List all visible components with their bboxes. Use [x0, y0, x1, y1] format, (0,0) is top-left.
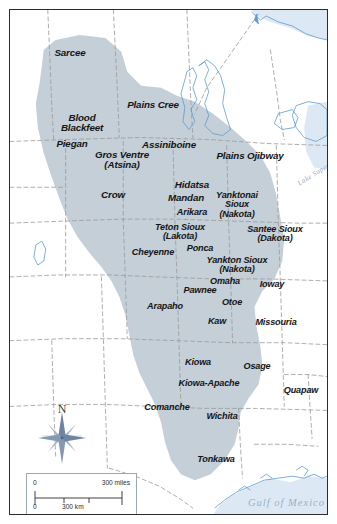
- scale-bar-ruler: [27, 474, 138, 515]
- map-figure: Sarcee Plains Cree Blood Blackfeet Piega…: [0, 0, 337, 524]
- map-frame-border: Sarcee Plains Cree Blood Blackfeet Piega…: [9, 9, 328, 515]
- scale-bar: 0 300 miles 0 300 km: [26, 473, 137, 515]
- compass-north-label: N: [38, 402, 86, 417]
- compass-rose: N: [38, 402, 86, 464]
